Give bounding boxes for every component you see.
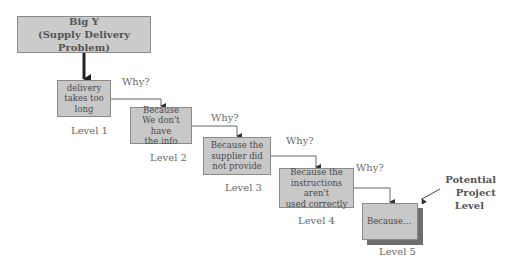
level-1-label: Level 1 (71, 125, 108, 136)
level-2-text-line: Because (143, 105, 179, 116)
root-title: Big Y (69, 15, 99, 28)
level-5-box: Because... (362, 203, 418, 240)
why-label-4: Why? (356, 162, 384, 173)
level-3-text-line: supplier did (211, 151, 263, 162)
level-5-label: Level 5 (379, 246, 416, 257)
level-4-label: Level 4 (298, 215, 335, 226)
level-2-text-line: We don't have (131, 115, 191, 136)
level-4-text-line: Because the (290, 167, 343, 178)
annotation-line-1: Potential Project (412, 173, 496, 199)
level-4-box: Because the instructions aren't used cor… (279, 168, 354, 208)
level-1-text-line: takes too (64, 93, 103, 104)
level-3-text-line: not provide (212, 161, 261, 172)
level-3-label: Level 3 (225, 182, 262, 193)
why-label-3: Why? (286, 135, 314, 146)
root-problem-box: Big Y (Supply Delivery Problem) (17, 16, 151, 53)
level-5-text-line: Because... (367, 216, 411, 227)
level-3-text-line: Because the (211, 140, 264, 151)
why-label-1: Why? (122, 76, 150, 87)
why-label-2: Why? (211, 112, 239, 123)
level-4-text-line: used correctly (286, 199, 348, 210)
level-3-box: Because the supplier did not provide (203, 137, 271, 175)
level-1-box: delivery takes too long (57, 80, 111, 117)
level-2-label: Level 2 (150, 152, 187, 163)
level-4-text-line: instructions aren't (280, 178, 353, 199)
level-2-text-line: the info (144, 136, 177, 147)
level-1-text-line: long (75, 104, 94, 115)
level-2-box: Because We don't have the info (130, 107, 192, 144)
root-subtitle: (Supply Delivery Problem) (18, 28, 150, 54)
annotation-line-2: Level (412, 199, 496, 212)
potential-project-annotation: Potential Project Level (412, 173, 496, 212)
level-1-text-line: delivery (67, 83, 102, 94)
